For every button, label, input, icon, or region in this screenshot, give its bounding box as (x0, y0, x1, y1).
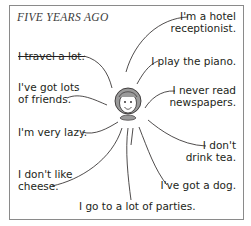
statement-friends-line2: of friends. (18, 93, 71, 106)
line-extra (131, 128, 133, 145)
statement-hotel-line2: receptionist. (171, 22, 236, 35)
statement-cheese-line1: I don't like (18, 168, 73, 181)
line-friends (67, 96, 107, 105)
statement-newspapers-line1: I never read (172, 84, 236, 97)
statement-tea-line2: drink tea. (186, 151, 236, 164)
statement-hotel-line1: I'm a hotel (180, 10, 236, 23)
line-tea (148, 120, 206, 146)
statement-travel: I travel a lot. (18, 50, 85, 63)
statement-tea-line1: I don't (203, 139, 236, 152)
statement-piano: I play the piano. (151, 55, 236, 68)
line-dog (139, 127, 167, 185)
line-travel (84, 56, 112, 88)
line-lazy (82, 122, 118, 133)
statement-dog: I've got a dog. (161, 179, 236, 192)
statement-parties: I go to a lot of parties. (79, 200, 195, 213)
statement-lazy: I'm very lazy. (18, 126, 87, 139)
statement-newspapers-line2: newspapers. (169, 96, 236, 109)
woman-illustration (115, 88, 141, 120)
line-parties (127, 128, 131, 200)
statement-friends-line1: I've got lots (18, 81, 79, 94)
statement-cheese-line2: cheese. (18, 180, 59, 193)
